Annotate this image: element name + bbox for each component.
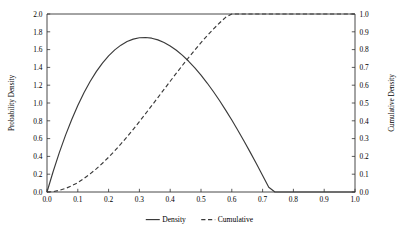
chart-figure: 0.00.20.40.60.81.01.21.41.61.82.00.00.10… [0, 0, 408, 237]
x-axis-tick-label: 0.1 [73, 195, 83, 204]
x-axis-tick-label: 0.3 [135, 195, 145, 204]
y-axis-left-tick-label: 1.4 [33, 63, 43, 72]
y-axis-left-tick-label: 0.8 [33, 117, 43, 126]
y-axis-right-tick-label: 0.5 [360, 99, 370, 108]
y-axis-left-title: Probability Density [8, 75, 16, 132]
y-axis-right-tick-label: 0.3 [360, 134, 370, 143]
y-axis-left-tick-label: 1.8 [33, 28, 43, 37]
y-axis-right-tick-label: 0.6 [360, 81, 370, 90]
density-curve [47, 37, 355, 192]
y-axis-right-tick-label: 0.8 [360, 45, 370, 54]
y-axis-right-title: Cumulative Density [388, 74, 396, 132]
y-axis-left-tick-label: 0.4 [33, 152, 43, 161]
probability-density-chart: 0.00.20.40.60.81.01.21.41.61.82.00.00.10… [0, 0, 408, 237]
cumulative-curve [47, 14, 355, 192]
x-axis-tick-label: 0.4 [166, 195, 176, 204]
y-axis-left-tick-label: 2.0 [33, 10, 43, 19]
y-axis-right-tick-label: 0.9 [360, 28, 370, 37]
x-axis-tick-label: 0.6 [227, 195, 237, 204]
x-axis-tick-label: 0.8 [289, 195, 299, 204]
x-axis-tick-label: 0.9 [320, 195, 330, 204]
y-axis-right-tick-label: 0.1 [360, 170, 370, 179]
y-axis-left-tick-label: 0.0 [33, 188, 43, 197]
y-axis-left-tick-label: 1.0 [33, 99, 43, 108]
legend-label-density: Density [162, 215, 186, 224]
x-axis-tick-label: 0.0 [42, 195, 52, 204]
y-axis-right-tick-label: 0.2 [360, 152, 370, 161]
y-axis-right-tick-label: 1.0 [360, 10, 370, 19]
y-axis-left-tick-label: 1.6 [33, 45, 43, 54]
y-axis-left-tick-label: 0.2 [33, 170, 43, 179]
x-axis-tick-label: 1.0 [350, 195, 360, 204]
y-axis-left-tick-label: 0.6 [33, 134, 43, 143]
y-axis-left-tick-label: 1.2 [33, 81, 43, 90]
y-axis-right-tick-label: 0.0 [360, 188, 370, 197]
y-axis-right-tick-label: 0.4 [360, 117, 370, 126]
legend-label-cumulative: Cumulative [218, 215, 254, 224]
x-axis-tick-label: 0.2 [104, 195, 114, 204]
x-axis-tick-label: 0.5 [196, 195, 206, 204]
y-axis-right-tick-label: 0.7 [360, 63, 370, 72]
x-axis-tick-label: 0.7 [258, 195, 268, 204]
